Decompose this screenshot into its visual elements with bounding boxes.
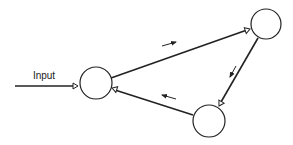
input-connection: Input — [15, 70, 78, 89]
direction-arrow-icon — [162, 42, 176, 46]
edge-left-to-topright — [111, 26, 251, 78]
edge-line — [115, 90, 193, 115]
triangle-terminal-icon — [216, 100, 224, 107]
edge-topright-to-bottom — [216, 38, 258, 108]
node-bottom — [193, 105, 225, 137]
direction-arrow-icon — [230, 66, 236, 77]
edge-line — [111, 30, 247, 78]
triangle-terminal-icon — [73, 83, 78, 89]
nodes — [80, 9, 281, 137]
network-diagram: Input — [0, 0, 293, 145]
edge-line — [221, 38, 258, 102]
edge-bottom-to-left — [111, 85, 193, 115]
input-label: Input — [33, 70, 55, 81]
node-left — [80, 67, 112, 99]
triangle-terminal-icon — [244, 26, 251, 33]
node-top-right — [251, 9, 281, 39]
edges — [111, 26, 258, 115]
direction-arrow-icon — [162, 95, 176, 99]
